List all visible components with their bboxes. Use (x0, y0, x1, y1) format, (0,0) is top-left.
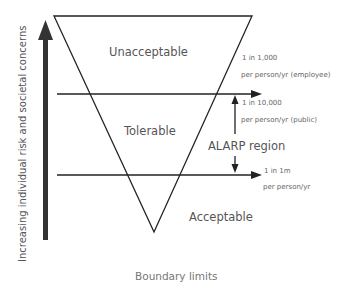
zone-unacceptable-label: Unacceptable (109, 45, 188, 59)
threshold-employee-unit: per person/yr (employee) (241, 71, 330, 79)
alarp-down-arrowhead (232, 164, 239, 173)
risk-axis-label: Increasing individual risk and societal … (17, 26, 28, 262)
threshold-lower-rate: 1 in 1m (264, 167, 291, 175)
upper-threshold-arrowhead (251, 90, 262, 98)
threshold-public-rate: 1 in 10,000 (242, 99, 282, 107)
boundary-limits-caption: Boundary limits (135, 270, 217, 282)
alarp-up-arrowhead (232, 95, 239, 104)
risk-axis-arrow-shaft (43, 38, 48, 240)
risk-axis-arrow-head (38, 20, 53, 40)
threshold-lower-unit: per person/yr (263, 183, 310, 191)
zone-acceptable-label: Acceptable (189, 210, 253, 224)
threshold-public-unit: per person/yr (public) (241, 116, 317, 124)
threshold-employee-rate: 1 in 1,000 (242, 54, 277, 62)
risk-triangle-diagram (0, 0, 342, 292)
zone-tolerable-label: Tolerable (124, 124, 176, 138)
alarp-region-label: ALARP region (208, 139, 285, 153)
lower-threshold-arrowhead (251, 171, 262, 179)
